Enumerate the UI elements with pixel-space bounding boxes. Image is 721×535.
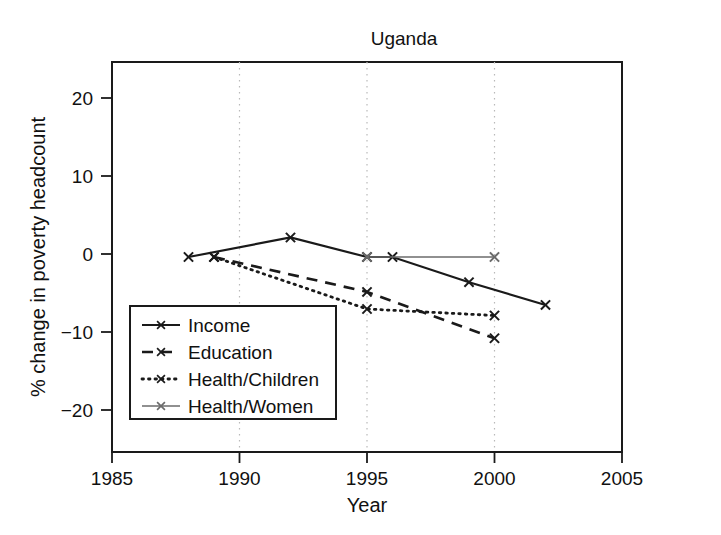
x-tick-label-2005: 2005 xyxy=(601,468,643,489)
y-tick-label-neg20: −20 xyxy=(61,400,93,421)
x-tick-label-1995: 1995 xyxy=(346,468,388,489)
y-tick-label-neg10: −10 xyxy=(61,322,93,343)
chart-title: Uganda xyxy=(371,28,438,49)
y-tick-label-0: 0 xyxy=(82,244,93,265)
legend: Income Education Health/Children Health/… xyxy=(130,306,336,419)
legend-label-income: Income xyxy=(188,315,250,336)
chart-figure: Uganda 20 10 0 −10 −20 xyxy=(0,0,721,535)
legend-label-education: Education xyxy=(188,342,273,363)
y-axis-title: % change in poverty headcount xyxy=(27,116,49,397)
x-tick-label-1985: 1985 xyxy=(91,468,133,489)
x-tick-label-2000: 2000 xyxy=(473,468,515,489)
y-tick-label-20: 20 xyxy=(72,88,93,109)
y-tick-label-10: 10 xyxy=(72,166,93,187)
x-tick-label-1990: 1990 xyxy=(218,468,260,489)
legend-label-health-children: Health/Children xyxy=(188,369,319,390)
uganda-line-chart: Uganda 20 10 0 −10 −20 xyxy=(0,0,721,535)
chart-background xyxy=(0,0,721,535)
legend-label-health-women: Health/Women xyxy=(188,396,313,417)
x-axis-title: Year xyxy=(347,494,388,516)
